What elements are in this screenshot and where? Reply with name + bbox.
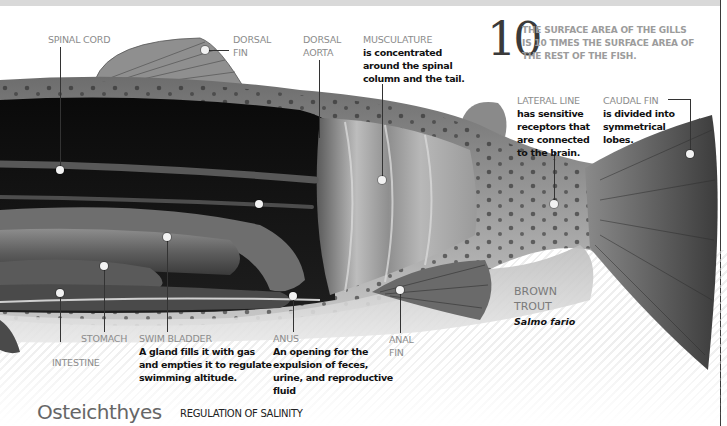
swim-bladder-desc-line: A gland fills it with gas [139, 345, 272, 358]
caudal-fin-description: is divided into symmetrical lobes. [603, 107, 675, 146]
anal-fin-leader [400, 293, 401, 333]
lateral-line-desc-line: has sensitive [517, 107, 590, 120]
intestine-leader [60, 296, 61, 342]
spinal-cord-dot [56, 166, 64, 174]
label-swim-bladder: SWIM BLADDER [139, 332, 212, 345]
intestine-dot [56, 289, 64, 297]
stomach-leader [104, 270, 105, 332]
species-scientific-name: Salmo fario [514, 314, 575, 329]
swim-bladder-desc-line: swimming altitude. [139, 371, 272, 384]
species-common-name-line: BROWN [514, 284, 575, 299]
dorsal-aorta-leader [319, 60, 320, 138]
caudal-fin-shape [585, 115, 718, 370]
anus-desc-line: expulsion of feces, [273, 358, 393, 371]
musculature-leader [382, 84, 383, 180]
swim-bladder-leader [167, 240, 168, 332]
fact-text-line: THE SURFACE AREA OF THE GILLS [522, 24, 694, 37]
fact-text-line: THE REST OF THE FISH. [522, 50, 694, 63]
label-stomach: STOMACH [81, 332, 127, 345]
musculature-desc-line: is concentrated [363, 46, 465, 59]
stomach-dot [100, 262, 108, 270]
lateral-line-leader [554, 152, 555, 204]
fact-text: THE SURFACE AREA OF THE GILLS IS 10 TIME… [522, 24, 694, 63]
dorsal-fin-leader [207, 50, 229, 51]
class-title: Osteichthyes [37, 400, 162, 424]
anus-desc-line: urine, and reproductive [273, 371, 393, 384]
label-dorsal-aorta-line2: AORTA [303, 46, 341, 59]
label-dorsal-fin: DORSAL FIN [233, 33, 271, 59]
lateral-line-dot [550, 200, 558, 208]
anus-desc-line: An opening for the [273, 345, 393, 358]
label-spinal-cord: SPINAL CORD [48, 33, 110, 46]
caudal-fin-dot [686, 150, 694, 158]
musculature-dot [378, 176, 386, 184]
musculature-description: is concentrated around the spinal column… [363, 46, 465, 85]
fact-text-line: IS 10 TIMES THE SURFACE AREA OF [522, 37, 694, 50]
anus-desc-line: fluid [273, 384, 393, 397]
anus-leader [293, 300, 294, 332]
label-dorsal-fin-line2: FIN [233, 46, 271, 59]
anal-fin-dot [396, 286, 404, 294]
swim-bladder-desc-line: and empties it to regulate [139, 358, 272, 371]
dorsal-aorta-dot [255, 200, 263, 208]
label-musculature: MUSCULATURE [363, 33, 432, 46]
label-anal-fin-line2: FIN [389, 346, 414, 359]
swim-bladder-description: A gland fills it with gas and empties it… [139, 345, 272, 384]
lateral-line-desc-line: to the brain. [517, 146, 590, 159]
anus-description: An opening for the expulsion of feces, u… [273, 345, 393, 397]
spinal-cord-leader [60, 47, 61, 170]
label-anus: ANUS [273, 332, 299, 345]
label-lateral-line: LATERAL LINE [517, 94, 580, 107]
caudal-fin-desc-line: symmetrical [603, 120, 675, 133]
swim-bladder-dot [163, 233, 171, 241]
caudal-fin-desc-line: is divided into [603, 107, 675, 120]
musculature-desc-line: around the spinal [363, 59, 465, 72]
dorsal-fin-dot [201, 46, 209, 54]
caudal-fin-leader-v [690, 99, 691, 154]
lateral-line-desc-line: are connected [517, 133, 590, 146]
label-anal-fin: ANAL FIN [389, 333, 414, 359]
section-title: REGULATION OF SALINITY [180, 408, 303, 419]
lateral-line-desc-line: receptors that [517, 120, 590, 133]
species-name: BROWN TROUT Salmo fario [514, 284, 575, 329]
caudal-fin-desc-line: lobes. [603, 133, 675, 146]
anus-dot [289, 292, 297, 300]
musculature-desc-line: column and the tail. [363, 72, 465, 85]
label-caudal-fin: CAUDAL FIN [603, 94, 658, 107]
label-dorsal-aorta-line1: DORSAL [303, 33, 341, 46]
label-dorsal-fin-line1: DORSAL [233, 33, 271, 46]
label-anal-fin-line1: ANAL [389, 333, 414, 346]
caudal-fin-leader-h [668, 99, 690, 100]
label-dorsal-aorta: DORSAL AORTA [303, 33, 341, 59]
label-intestine: INTESTINE [52, 356, 100, 369]
lateral-line-description: has sensitive receptors that are connect… [517, 107, 590, 159]
species-common-name-line: TROUT [514, 299, 575, 314]
